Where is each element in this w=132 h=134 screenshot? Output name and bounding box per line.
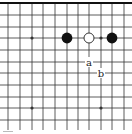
star-point xyxy=(30,36,33,39)
point-label-b: b xyxy=(98,68,104,79)
stones xyxy=(62,33,118,44)
black-stone xyxy=(107,33,118,44)
star-point xyxy=(99,106,102,109)
go-board-diagram: ab xyxy=(0,0,132,134)
point-labels: ab xyxy=(85,57,105,79)
black-stone xyxy=(62,33,73,44)
star-point xyxy=(99,36,102,39)
point-label-a: a xyxy=(86,57,92,68)
white-stone xyxy=(84,33,94,43)
star-point xyxy=(30,106,33,109)
caption-mark xyxy=(3,131,13,132)
board-grid xyxy=(0,3,132,130)
